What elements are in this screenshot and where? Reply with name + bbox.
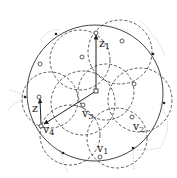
point-v2 — [130, 115, 134, 119]
label-z: z — [32, 102, 38, 115]
label-z1: z1 — [99, 37, 110, 51]
dashed-circle — [87, 108, 147, 168]
center-point — [94, 89, 98, 93]
point-p4 — [132, 82, 136, 86]
point-z — [37, 95, 41, 99]
arrow-to-z — [40, 99, 41, 124]
intersection-dot — [152, 53, 155, 56]
intersection-dots — [24, 33, 166, 155]
intersection-dot — [24, 96, 27, 99]
label-v4: v4 — [42, 123, 54, 137]
label-v3: v3 — [81, 107, 93, 121]
intersection-dot — [62, 152, 65, 155]
intersection-dot — [55, 33, 58, 36]
dotted-arc — [40, 30, 60, 40]
dotted-arc — [8, 97, 27, 110]
label-v1: v1 — [96, 142, 108, 156]
point-p1 — [120, 39, 124, 43]
dashed-circle — [22, 72, 78, 128]
dotted-arc — [133, 148, 134, 170]
point-v1 — [98, 155, 102, 159]
circle-covering-diagram: z1zv1v2v3v4 — [0, 0, 177, 178]
point-z1 — [94, 31, 98, 35]
point-p2 — [80, 55, 84, 59]
intersection-dot — [132, 147, 135, 150]
point-p3 — [38, 62, 42, 66]
intersection-dot — [163, 102, 166, 105]
dotted-arc — [140, 20, 165, 55]
